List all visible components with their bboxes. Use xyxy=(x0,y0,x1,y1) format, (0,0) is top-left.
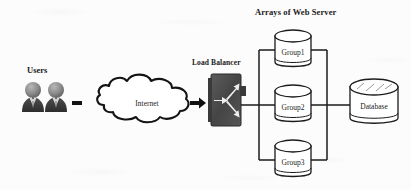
group3-label: Group3 xyxy=(271,158,315,167)
arrays-of-web-server-title: Arrays of Web Server xyxy=(255,8,336,17)
dash-connector-icon xyxy=(72,101,82,105)
group1-label: Group1 xyxy=(271,48,315,57)
network-architecture-diagram: Arrays of Web Server Users Load Balancer… xyxy=(0,0,411,190)
user-person-icon xyxy=(45,82,67,112)
user-person-icon xyxy=(22,82,44,112)
arrow-right-icon xyxy=(190,98,206,109)
database-label: Database xyxy=(352,102,396,111)
users-label: Users xyxy=(27,66,47,75)
group2-label: Group2 xyxy=(271,103,315,112)
internet-cloud-label: Internet xyxy=(125,99,169,108)
load-balancer-label: Load Balancer xyxy=(192,59,241,67)
load-balancer-icon xyxy=(208,74,246,126)
diagram-vector-layer xyxy=(0,0,411,190)
